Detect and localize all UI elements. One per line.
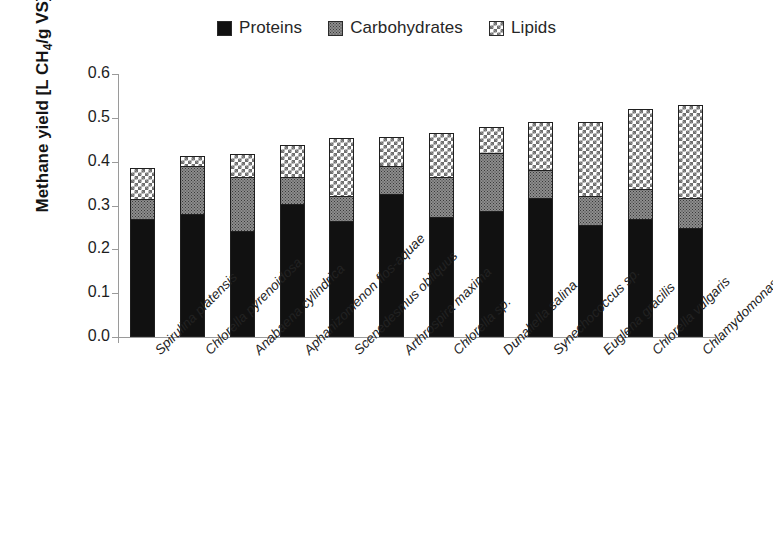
x-axis-category-label: Anabaena cylindrica: [251, 347, 262, 358]
bar-segment-carbohydrates: [578, 196, 603, 225]
chart-legend: Proteins Carbohydrates Lipids: [0, 18, 773, 38]
bar-segment-lipids: [230, 154, 255, 178]
legend-item-carbohydrates: Carbohydrates: [328, 18, 463, 38]
legend-item-proteins: Proteins: [217, 18, 302, 38]
x-axis-category-label: Chlorella vulgaris: [649, 347, 660, 358]
bar-segment-lipids: [578, 122, 603, 197]
bar-segment-carbohydrates: [479, 153, 504, 211]
y-axis-tick-label: 0.2: [66, 239, 110, 257]
bar-segment-carbohydrates: [678, 198, 703, 229]
y-axis-tick: [112, 293, 118, 294]
methane-yield-stacked-bar-chart: Proteins Carbohydrates Lipids Methane yi…: [0, 0, 773, 536]
x-axis-tick-labels: Spirulina platensisChlorella pyrenoidosa…: [0, 337, 773, 536]
bar-segment-carbohydrates: [230, 177, 255, 231]
y-axis-tick: [112, 162, 118, 163]
x-axis-category-label: Chlamydomonas rheinhardii: [699, 347, 710, 358]
bar-segment-carbohydrates: [329, 196, 354, 221]
x-axis-category-label: Chlorella sp.: [450, 347, 461, 358]
y-axis-tick-label: 0.6: [66, 64, 110, 82]
legend-label-lipids: Lipids: [511, 18, 556, 38]
bar-segment-lipids: [429, 133, 454, 177]
bar-segment-lipids: [628, 109, 653, 189]
bar-segment-lipids: [379, 137, 404, 166]
bar-segment-carbohydrates: [130, 199, 155, 218]
y-axis-tick-label: 0.1: [66, 283, 110, 301]
bar-segment-lipids: [329, 138, 354, 195]
stacked-bar: [130, 168, 155, 337]
bar-segment-proteins: [130, 219, 155, 337]
bar-segment-carbohydrates: [379, 166, 404, 194]
y-axis-title-suffix: /g VS]: [33, 0, 52, 44]
x-axis-category-label: Synechococcus sp.: [550, 347, 561, 358]
y-axis-tick: [112, 206, 118, 207]
dotted-gray-swatch-icon: [328, 21, 343, 36]
x-axis-category-label: Arthrospira maxima: [401, 347, 412, 358]
y-axis-tick: [112, 74, 118, 75]
bar-segment-lipids: [130, 168, 155, 199]
solid-black-swatch-icon: [217, 21, 232, 36]
x-axis-category-label: Scenedesmus obliquus: [351, 347, 362, 358]
y-axis-tick: [112, 118, 118, 119]
bar-segment-carbohydrates: [180, 166, 205, 214]
x-axis-category-label: Spirulina platensis: [152, 347, 163, 358]
x-axis-category-label: Dunaliella salina: [500, 347, 511, 358]
bar-segment-carbohydrates: [429, 177, 454, 217]
y-axis-tick: [112, 249, 118, 250]
bar-segment-lipids: [678, 105, 703, 197]
y-axis-title: Methane yield [L CH4/g VS]: [33, 0, 57, 233]
legend-label-proteins: Proteins: [239, 18, 302, 38]
bar-segment-lipids: [180, 156, 205, 165]
bar-segment-lipids: [280, 145, 305, 177]
x-axis-category-label: Aphanizomenon flos-aquae: [301, 347, 312, 358]
legend-label-carbohydrates: Carbohydrates: [350, 18, 463, 38]
x-axis-category-label: Euglena gracilis: [600, 347, 611, 358]
checkered-swatch-icon: [489, 21, 504, 36]
y-axis-title-subscript: 4: [41, 44, 55, 51]
y-axis-tick-label: 0.5: [66, 108, 110, 126]
y-axis-tick-label: 0.3: [66, 196, 110, 214]
bar-segment-lipids: [528, 122, 553, 171]
bar-segment-carbohydrates: [628, 189, 653, 219]
bar-segment-lipids: [479, 127, 504, 153]
legend-item-lipids: Lipids: [489, 18, 556, 38]
bar-segment-carbohydrates: [280, 177, 305, 203]
bar-segment-carbohydrates: [528, 170, 553, 197]
y-axis-title-prefix: Methane yield [L CH: [33, 50, 52, 212]
y-axis-tick-label: 0.4: [66, 152, 110, 170]
x-axis-category-label: Chlorella pyrenoidosa: [202, 347, 213, 358]
